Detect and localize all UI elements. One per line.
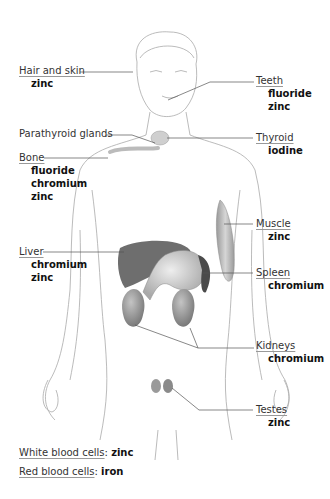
kidney-right bbox=[172, 289, 195, 327]
label-teeth: Teeth fluoride zinc bbox=[256, 75, 312, 113]
testis-right bbox=[163, 379, 173, 393]
label-muscle: Muscle zinc bbox=[256, 218, 291, 243]
label-kidneys: Kidneys chromium bbox=[256, 340, 324, 365]
muscle bbox=[216, 200, 234, 281]
body-diagram: Hair and skin zinc Teeth fluoride zinc P… bbox=[0, 0, 330, 499]
clavicle-bone bbox=[110, 148, 158, 152]
label-hair-and-skin: Hair and skin zinc bbox=[19, 65, 85, 90]
label-liver: Liver chromium zinc bbox=[19, 246, 87, 284]
testis-left bbox=[151, 379, 161, 393]
label-testes: Testes zinc bbox=[256, 404, 290, 429]
kidney-left bbox=[122, 289, 145, 327]
label-spleen: Spleen chromium bbox=[256, 267, 324, 292]
label-white-blood-cells: White blood cells: zinc bbox=[19, 447, 133, 458]
label-red-blood-cells: Red blood cells: iron bbox=[19, 466, 123, 477]
label-thyroid: Thyroid iodine bbox=[256, 132, 303, 157]
label-bone: Bone fluoride chromium zinc bbox=[19, 152, 87, 203]
label-parathyroid-glands: Parathyroid glands bbox=[19, 128, 113, 140]
